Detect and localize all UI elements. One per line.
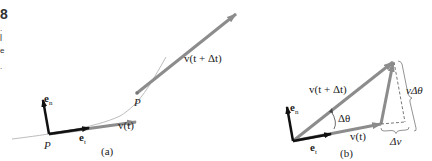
- v-t-dt-label-a: v(t + Δt): [184, 52, 222, 65]
- point-p2-label: P: [133, 96, 141, 108]
- v-delta-theta-brace: [398, 61, 416, 131]
- delta-v-label: Δv: [389, 135, 401, 147]
- delta-theta-arc: [331, 111, 335, 129]
- point-p2-dot: [135, 91, 139, 95]
- delta-v-brace: [381, 127, 409, 134]
- e-t-label-a: et: [79, 131, 86, 146]
- e-t-label-b: et: [310, 141, 317, 156]
- diagram-a: en et P P v(t) v(t + Δt) (a): [12, 14, 236, 158]
- particle-path-curve: [12, 57, 166, 139]
- v-t-label-a: v(t): [118, 119, 134, 132]
- e-n-label-a: en: [44, 92, 53, 107]
- dashed-construction-horizontal: [381, 122, 405, 124]
- caption-b: (b): [340, 147, 353, 160]
- point-p-label: P: [43, 139, 51, 151]
- delta-theta-label: Δθ: [338, 112, 350, 124]
- diagram-b: en et v(t) v(t + Δt) Δθ vΔθ Δv (b): [287, 61, 423, 160]
- v-t-label-b: v(t): [350, 130, 366, 143]
- kinematics-diagram: en et P P v(t) v(t + Δt) (a) en et v(t) …: [0, 0, 432, 161]
- delta-v-arrow: [381, 63, 393, 124]
- v-t-dt-label-b: v(t + Δt): [309, 83, 347, 96]
- e-n-label-b: en: [290, 101, 299, 116]
- velocity-t-dt-arrow-b: [293, 62, 393, 141]
- v-delta-theta-label: vΔθ: [406, 84, 423, 96]
- caption-a: (a): [101, 145, 114, 158]
